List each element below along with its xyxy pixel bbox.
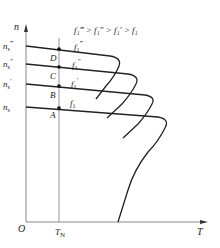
curve-label-f1-triple-prime: f1‴ [74, 39, 84, 53]
frequency-order-legend: f₁‴ > f₁″ > f₁′ > f₁ [74, 25, 138, 35]
curve-label-f1: f1 [70, 98, 76, 109]
point-b [57, 84, 61, 88]
y-axis-arrow-icon [24, 24, 28, 32]
speed-label-ns-double-prime: ns″ [3, 57, 13, 70]
point-d [57, 47, 61, 51]
curve-label-f1-prime: f1′ [71, 76, 79, 90]
x-axis-label: T [197, 226, 204, 237]
point-d-label: D [49, 53, 57, 63]
curve-f1-prime [26, 84, 153, 138]
point-c [57, 65, 61, 69]
characteristic-curves [26, 46, 166, 222]
frequency-labels: f1‴ f1″ f1′ f1 [70, 39, 84, 109]
curve-f1-double-prime [26, 64, 137, 118]
origin-label: O [18, 223, 25, 234]
frequency-speed-torque-diagram: n T O TN f₁‴ > f₁″ > f₁′ > f₁ D C B A ns… [0, 0, 220, 248]
x-axis-arrow-icon [200, 220, 208, 224]
speed-labels: ns‴ ns″ ns′ ns [3, 39, 14, 113]
point-a [57, 106, 61, 110]
point-c-label: C [50, 71, 57, 81]
point-a-label: A [49, 110, 56, 120]
speed-label-ns: ns [3, 102, 11, 113]
speed-label-ns-prime: ns′ [3, 77, 12, 90]
rated-torque-label: TN [55, 227, 65, 239]
point-b-label: B [50, 90, 56, 100]
curve-f1 [26, 107, 166, 222]
speed-label-ns-triple-prime: ns‴ [3, 39, 14, 52]
y-axis-label: n [14, 21, 19, 32]
